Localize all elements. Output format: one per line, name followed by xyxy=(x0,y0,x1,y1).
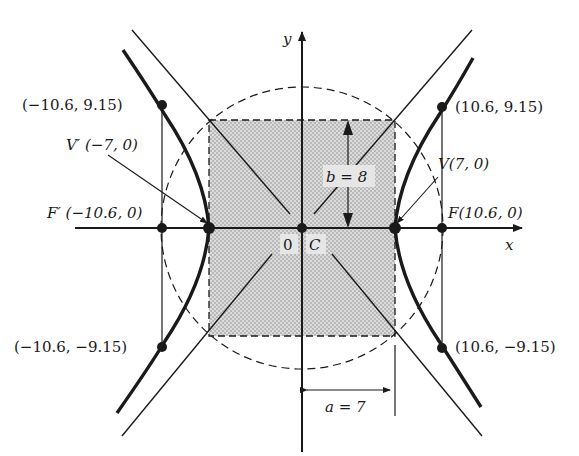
focus-right-dot xyxy=(437,223,447,233)
x-axis-label: x xyxy=(505,236,514,254)
latus-point-ur-label: (10.6, 9.15) xyxy=(455,98,543,116)
focus-right-label: F(10.6, 0) xyxy=(447,204,523,222)
vertex-right-label: V(7, 0) xyxy=(438,155,489,173)
y-axis-label: y xyxy=(282,30,292,48)
hyperbola-diagram: y x 0 C b = 8 a = 7 (−10.6, 9.15) (10.6,… xyxy=(0,0,579,456)
vertex-right-dot xyxy=(389,222,401,234)
origin-label: 0 xyxy=(283,236,293,254)
latus-point-ur xyxy=(437,102,447,112)
vertex-left-dot xyxy=(203,222,215,234)
latus-point-ll-label: (−10.6, −9.15) xyxy=(14,338,127,356)
latus-point-lr-label: (10.6, −9.15) xyxy=(455,338,556,356)
b-label: b = 8 xyxy=(326,168,367,186)
latus-point-lr xyxy=(437,343,447,353)
latus-point-ul xyxy=(157,100,167,110)
latus-point-ll xyxy=(157,342,167,352)
center-label: C xyxy=(309,236,321,254)
focus-left-dot xyxy=(157,223,167,233)
latus-point-ul-label: (−10.6, 9.15) xyxy=(22,96,123,114)
diagram-canvas: y x 0 C b = 8 a = 7 (−10.6, 9.15) (10.6,… xyxy=(0,0,579,456)
vertex-left-label: V′ (−7, 0) xyxy=(66,136,138,154)
center-dot xyxy=(297,223,307,233)
focus-left-label: F′ (−10.6, 0) xyxy=(46,204,142,222)
a-label: a = 7 xyxy=(325,398,366,416)
